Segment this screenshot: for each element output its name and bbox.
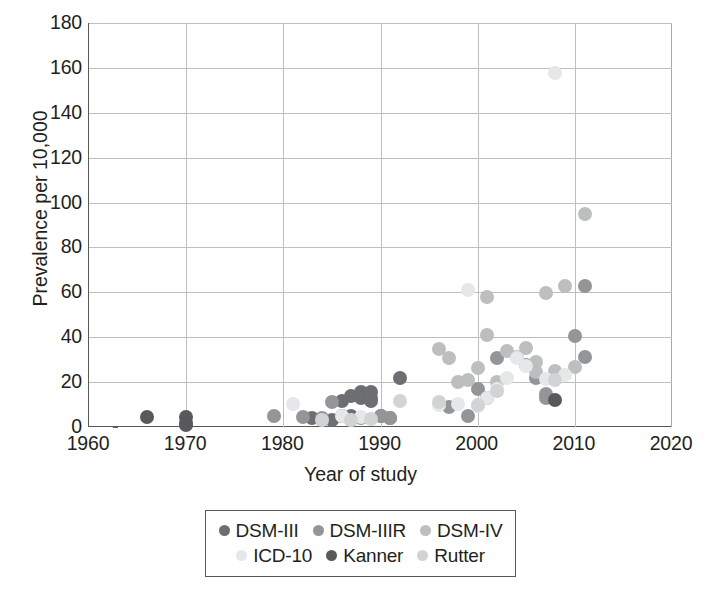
data-point-dsm-iii <box>364 394 378 408</box>
x-axis-title: Year of study <box>0 464 721 485</box>
legend-item-dsm-iv[interactable]: DSM-IV <box>420 521 502 540</box>
legend-marker-icon <box>326 550 337 561</box>
data-point-dsm-iv <box>480 290 494 304</box>
data-point-dsm-iiir <box>296 410 310 424</box>
y-axis-tick-mark <box>113 427 118 428</box>
data-point-icd-10 <box>548 66 562 80</box>
legend-label: DSM-III <box>236 521 299 540</box>
data-point-kanner <box>179 418 193 432</box>
data-point-rutter <box>548 373 562 387</box>
legend-label: ICD-10 <box>253 546 312 565</box>
x-axis-ticks: 1960197019801990200020102020 <box>0 434 721 464</box>
data-point-rutter <box>490 384 504 398</box>
legend-row: ICD-10KannerRutter <box>206 543 515 568</box>
legend-label: Kanner <box>343 546 403 565</box>
data-point-rutter <box>364 412 378 426</box>
scatter-chart-figure: 020406080100120140160180 Prevalence per … <box>0 0 721 612</box>
legend-marker-icon <box>236 550 247 561</box>
gridline-vertical <box>381 23 382 427</box>
data-point-dsm-iiir <box>325 395 339 409</box>
data-point-dsm-iv <box>539 286 553 300</box>
x-axis-tick-label: 1970 <box>145 434 225 454</box>
data-point-icd-10 <box>286 397 300 411</box>
x-axis-tick-label: 2020 <box>631 434 711 454</box>
legend-label: Rutter <box>434 546 485 565</box>
x-axis-tick-label: 1980 <box>242 434 322 454</box>
y-axis-tick-label: 180 <box>36 13 82 33</box>
legend-marker-icon <box>313 525 324 536</box>
x-axis-tick-label: 2010 <box>534 434 614 454</box>
data-point-dsm-iv <box>442 351 456 365</box>
legend: DSM-IIIDSM-IIIRDSM-IVICD-10KannerRutter <box>205 510 516 577</box>
legend-row: DSM-IIIDSM-IIIRDSM-IV <box>206 518 515 543</box>
data-point-dsm-iv <box>480 328 494 342</box>
data-point-rutter <box>432 395 446 409</box>
data-point-rutter <box>315 413 329 427</box>
data-point-icd-10 <box>500 371 514 385</box>
data-point-kanner <box>548 393 562 407</box>
data-point-icd-10 <box>461 283 475 297</box>
data-point-kanner <box>140 410 154 424</box>
data-point-icd-10 <box>451 397 465 411</box>
legend-marker-icon <box>219 525 230 536</box>
data-point-rutter <box>393 394 407 408</box>
legend-item-rutter[interactable]: Rutter <box>417 546 485 565</box>
legend-marker-icon <box>420 525 431 536</box>
data-point-dsm-iiir <box>267 409 281 423</box>
x-axis-tick-label: 1990 <box>340 434 420 454</box>
legend-item-dsm-iiir[interactable]: DSM-IIIR <box>313 521 407 540</box>
gridline-vertical <box>186 23 187 427</box>
plot-frame-right-border <box>671 23 672 427</box>
data-point-dsm-iv <box>461 373 475 387</box>
data-point-dsm-iiir <box>383 411 397 425</box>
data-point-dsm-iiir <box>578 279 592 293</box>
x-axis-tick-label: 1960 <box>48 434 128 454</box>
data-point-dsm-iv <box>578 207 592 221</box>
legend-item-kanner[interactable]: Kanner <box>326 546 403 565</box>
legend-label: DSM-IIIR <box>330 521 407 540</box>
gridline-vertical <box>283 23 284 427</box>
x-axis-tick-label: 2000 <box>437 434 517 454</box>
plot-area <box>88 23 671 427</box>
legend-marker-icon <box>417 550 428 561</box>
data-point-dsm-iv <box>471 361 485 375</box>
data-point-dsm-iiir <box>568 329 582 343</box>
data-point-dsm-iv <box>558 279 572 293</box>
y-axis-title: Prevalence per 10,000 <box>30 44 51 374</box>
legend-item-icd-10[interactable]: ICD-10 <box>236 546 312 565</box>
data-point-icd-10 <box>519 359 533 373</box>
y-axis-tick-label: 20 <box>36 372 82 392</box>
data-point-rutter <box>344 413 358 427</box>
data-point-rutter <box>471 398 485 412</box>
legend-label: DSM-IV <box>437 521 502 540</box>
legend-item-dsm-iii[interactable]: DSM-III <box>219 521 299 540</box>
data-point-dsm-iii <box>393 371 407 385</box>
